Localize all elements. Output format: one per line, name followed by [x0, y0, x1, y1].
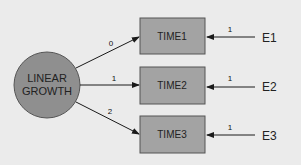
latent-factor-linear-growth: LINEAR GROWTH	[14, 52, 80, 118]
error-paths: 1 1 1 E1 E2 E3	[207, 25, 277, 143]
observed-time2: TIME2	[140, 67, 205, 104]
observed-time1: TIME1	[140, 18, 205, 54]
latent-label-line2: GROWTH	[22, 85, 72, 97]
path-diagram: LINEAR GROWTH 0 1 2 TIME1 TIME2 TIME3 1 …	[0, 0, 301, 165]
loading-value-time2: 1	[112, 74, 117, 83]
error-path-value-e2: 1	[228, 74, 233, 83]
observed-label-time1: TIME1	[157, 31, 187, 42]
error-label-e2: E2	[262, 80, 277, 94]
loading-arrow-time1	[76, 37, 139, 68]
error-path-value-e3: 1	[228, 123, 233, 132]
latent-label-line1: LINEAR	[27, 72, 67, 84]
observed-time3: TIME3	[140, 116, 205, 153]
loading-value-time3: 2	[108, 107, 113, 116]
error-label-e1: E1	[262, 31, 277, 45]
loading-value-time1: 0	[109, 39, 114, 48]
observed-label-time3: TIME3	[157, 129, 187, 140]
loading-paths: 0 1 2	[76, 37, 139, 134]
observed-label-time2: TIME2	[157, 80, 187, 91]
error-label-e3: E3	[262, 129, 277, 143]
error-path-value-e1: 1	[228, 25, 233, 34]
